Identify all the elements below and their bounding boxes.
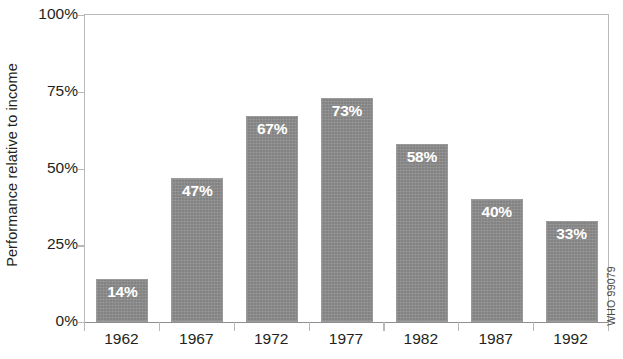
y-axis-tick-label: 50% xyxy=(26,159,78,177)
x-axis-tick-label: 1987 xyxy=(478,330,512,348)
x-axis-tick-label: 1962 xyxy=(104,330,138,348)
bar[interactable]: 14% xyxy=(96,279,148,322)
bar-value-label: 67% xyxy=(247,120,297,138)
y-axis-title-text: Performance relative to income xyxy=(4,63,20,267)
bar-value-label: 14% xyxy=(97,283,147,301)
x-axis-tick-label: 1972 xyxy=(254,330,288,348)
bar[interactable]: 73% xyxy=(321,98,373,322)
y-axis-tick-label: 100% xyxy=(26,5,78,23)
y-axis-tick-mark xyxy=(78,15,85,16)
bar-slot: 40% xyxy=(459,15,534,322)
x-axis-tick-label: 1967 xyxy=(179,330,213,348)
bar-value-label: 47% xyxy=(172,182,222,200)
bar[interactable]: 40% xyxy=(471,199,523,322)
bar-slot: 67% xyxy=(235,15,310,322)
bar-slot: 33% xyxy=(534,15,609,322)
y-axis-tick-label: 75% xyxy=(26,82,78,100)
y-axis-tick-mark xyxy=(78,245,85,246)
x-axis-tick-mark xyxy=(533,322,534,331)
y-axis-tick-mark xyxy=(78,92,85,93)
bar-slot: 47% xyxy=(160,15,235,322)
bar[interactable]: 58% xyxy=(396,144,448,322)
bar[interactable]: 67% xyxy=(246,116,298,322)
bar[interactable]: 47% xyxy=(171,178,223,322)
bar-value-label: 33% xyxy=(547,225,597,243)
bar[interactable]: 33% xyxy=(546,221,598,322)
y-axis-title: Performance relative to income xyxy=(0,0,24,330)
bar-chart: Performance relative to income 0%25%50%7… xyxy=(0,0,623,359)
x-axis-tick-mark xyxy=(383,322,384,331)
bar-value-label: 40% xyxy=(472,203,522,221)
x-axis-tick-mark xyxy=(159,322,160,331)
bar-slot: 73% xyxy=(310,15,385,322)
credit-note: WHO 99079 xyxy=(600,248,622,343)
x-axis-tick-mark xyxy=(234,322,235,331)
y-axis-tick-label: 25% xyxy=(26,235,78,253)
credit-text: WHO 99079 xyxy=(605,266,617,326)
y-axis-tick-labels: 0%25%50%75%100% xyxy=(22,0,78,359)
bar-value-label: 73% xyxy=(322,102,372,120)
x-axis-tick-mark xyxy=(84,322,85,331)
bar-value-label: 58% xyxy=(397,148,447,166)
x-axis-tick-label: 1992 xyxy=(553,330,587,348)
bar-slot: 58% xyxy=(384,15,459,322)
x-axis-tick-label: 1982 xyxy=(404,330,438,348)
x-axis-tick-mark xyxy=(458,322,459,331)
x-axis-tick-label: 1977 xyxy=(329,330,363,348)
plot-area: 14%47%67%73%58%40%33% xyxy=(84,14,609,323)
y-axis-tick-label: 0% xyxy=(26,312,78,330)
bar-slot: 14% xyxy=(85,15,160,322)
y-axis-tick-mark xyxy=(78,169,85,170)
x-axis-tick-mark xyxy=(309,322,310,331)
